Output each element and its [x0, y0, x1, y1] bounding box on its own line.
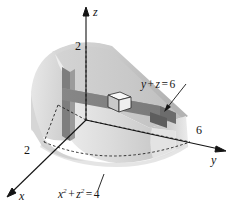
cyl-eq-z-exponent: 2 — [81, 187, 85, 195]
y-axis-label: y — [211, 154, 216, 166]
z-axis-tick-label: 2 — [75, 40, 81, 52]
volume-element-cube — [108, 92, 131, 112]
vertical-post-side — [70, 69, 75, 141]
plane-eq-z: z — [156, 78, 160, 90]
cyl-eq-value: 4 — [94, 188, 100, 200]
cyl-eq-plus: + — [68, 188, 75, 200]
cyl-eq-x-exponent: 2 — [63, 187, 67, 195]
plane-eq-plus: + — [148, 78, 155, 90]
plane-equation-label: y+z=6 — [141, 79, 175, 91]
solid-diagram-svg — [0, 0, 228, 209]
z-axis-arrowhead — [83, 7, 89, 16]
y-axis-tick-label: 6 — [196, 124, 202, 136]
plane-eq-value: 6 — [170, 78, 176, 90]
x-axis-label: x — [19, 190, 24, 202]
plane-eq-y: y — [141, 78, 146, 90]
plane-eq-equals: = — [162, 78, 169, 90]
vertical-post-face — [62, 67, 70, 141]
z-axis-label: z — [93, 6, 98, 18]
cyl-eq-equals: = — [86, 188, 93, 200]
y-axis-arrowhead — [215, 146, 226, 152]
figure-canvas: z 2 y 6 x 2 y+z=6 x2+z2=4 — [0, 0, 228, 209]
x-axis-tick-label: 2 — [24, 144, 30, 156]
cylinder-equation-label: x2+z2=4 — [58, 188, 99, 200]
